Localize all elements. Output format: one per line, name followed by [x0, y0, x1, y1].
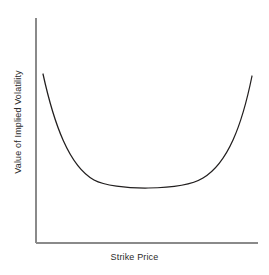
x-axis-label: Strike Price [0, 252, 269, 262]
chart-plot-area [0, 0, 269, 275]
volatility-smile-chart: Value of Implied Volatility Strike Price [0, 0, 269, 275]
implied-volatility-curve [43, 74, 252, 188]
